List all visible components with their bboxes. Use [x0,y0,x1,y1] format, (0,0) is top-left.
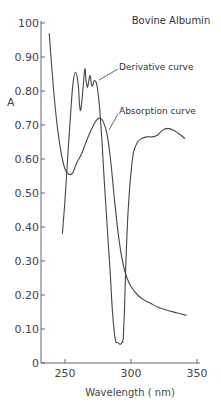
y-tick-label: 0.10 [15,323,40,336]
y-tick-label: 0.90 [15,51,40,64]
y-tick-label: 0.70 [15,119,40,132]
y-tick-label: 0.50 [15,187,40,200]
absorption-curve-label: Absorption curve [119,106,196,116]
y-axis-label: A [7,96,15,109]
y-tick-label: 0.60 [15,153,40,166]
y-ticks: 00.100.200.300.400.500.600.700.800.90100 [15,17,46,370]
x-axis-label: Wavelength ( nm) [85,387,175,398]
x-tick-label: 350 [187,367,208,380]
chart: 00.100.200.300.400.500.600.700.800.90100… [0,0,221,403]
y-tick-label: 0.40 [15,221,40,234]
derivative-curve-label: Derivative curve [119,62,194,72]
absorption-leader-line [109,114,118,130]
x-tick-label: 300 [121,367,142,380]
y-tick-label: 100 [18,17,39,30]
x-tick-label: 250 [55,367,76,380]
y-tick-label: 0.30 [15,255,40,268]
chart-title: Bovine Albumin [132,15,211,26]
y-tick-label: 0.80 [15,85,40,98]
x-ticks: 250300350 [55,359,208,380]
derivative-leader-line [99,69,118,80]
absorption-curve [49,33,186,315]
y-tick-label: 0 [32,357,39,370]
axes [41,21,200,363]
y-tick-label: 0.20 [15,289,40,302]
